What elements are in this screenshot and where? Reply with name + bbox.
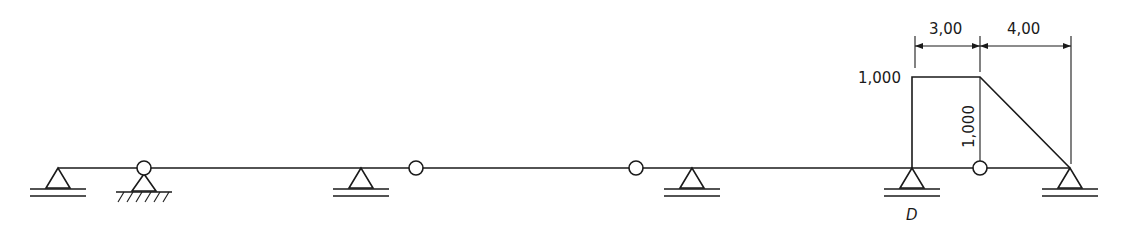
influence-line-shape [912,77,1070,168]
hinge-icon [973,161,987,175]
support-label-d: D [906,206,918,224]
ordinate-label-vertical: 1,000 [960,105,978,148]
hinge-icon [409,161,423,175]
roller-support-icon [1042,168,1098,196]
ordinate-label-left: 1,000 [858,69,901,87]
structural-diagram: D 1,000 1,000 3,00 4,00 [0,0,1127,243]
roller-support-icon [664,168,720,196]
hinge-icon [137,161,151,175]
roller-support-d-icon [884,168,940,196]
dimension-label-2: 4,00 [1007,20,1040,38]
pinned-support-icon [116,174,172,202]
roller-support-icon [30,168,86,196]
hinge-icon [629,161,643,175]
roller-support-icon [333,168,389,196]
dimension-label-1: 3,00 [929,20,962,38]
